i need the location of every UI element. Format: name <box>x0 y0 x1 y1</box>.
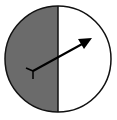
spinner-left-half <box>5 6 58 112</box>
spinner-diagram <box>0 0 117 120</box>
